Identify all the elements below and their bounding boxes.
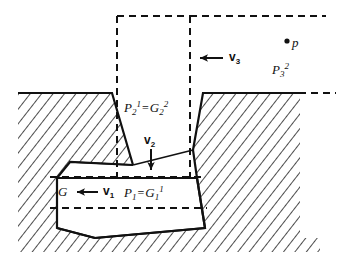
- point-p-label: p: [292, 36, 299, 49]
- velocity-2-symbol: v: [144, 133, 151, 147]
- region-2-lhs-base: P: [124, 100, 132, 115]
- figure-root: P21=G22 P1=G11 P32 p G v1 v2 v3: [0, 0, 338, 258]
- region-3-label: P32: [272, 62, 289, 79]
- velocity-1-sub: 1: [110, 191, 114, 200]
- velocity-2-sub: 2: [151, 140, 155, 149]
- diagram-canvas: [0, 0, 338, 258]
- region-2-rhs-base: G: [150, 100, 159, 115]
- gravity-label: G: [58, 185, 67, 198]
- velocity-1-symbol: v: [103, 184, 110, 198]
- region-1-label: P1=G11: [124, 185, 164, 202]
- velocity-3-symbol: v: [229, 50, 236, 64]
- region-2-equals: =: [141, 101, 150, 115]
- region-1-lhs-base: P: [124, 185, 132, 200]
- velocity-1-label: v1: [103, 185, 114, 200]
- region-3-base: P: [272, 62, 280, 77]
- region-2-label: P21=G22: [124, 100, 168, 117]
- region-2-rhs-sup: 2: [164, 99, 169, 109]
- soil-right: [193, 93, 300, 238]
- region-1-rhs-base: G: [145, 185, 154, 200]
- region-3-sup: 2: [284, 61, 289, 71]
- velocity-3-sub: 3: [236, 57, 240, 66]
- region-1-equals: =: [136, 186, 145, 200]
- velocity-2-label: v2: [144, 134, 155, 149]
- velocity-3-label: v3: [229, 51, 240, 66]
- point-p-marker: [284, 38, 289, 43]
- region-1-rhs-sup: 1: [159, 184, 164, 194]
